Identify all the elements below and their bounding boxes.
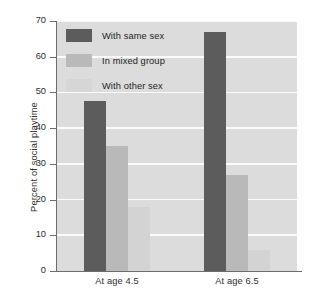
bar [106,146,128,271]
y-tick-mark [50,128,56,129]
legend-label: With same sex [102,31,164,41]
y-tick-label: 30 [17,159,46,168]
legend-label: In mixed group [102,56,165,66]
legend-item: In mixed group [66,48,165,73]
y-tick-mark [50,271,56,272]
bar [226,175,248,271]
gridline [57,21,297,22]
y-tick-mark [50,200,56,201]
chart-legend: With same sexIn mixed groupWith other se… [66,23,165,98]
legend-swatch [66,29,92,42]
y-tick-label: 40 [17,123,46,132]
y-tick-mark [50,164,56,165]
y-tick-mark [50,21,56,22]
y-tick-label: 0 [17,266,46,275]
legend-label: With other sex [102,81,163,91]
legend-item: With same sex [66,23,165,48]
bar [248,250,270,271]
bar [128,207,150,271]
bar-chart-figure: Percent of social playtime 0102030405060… [0,0,310,302]
legend-swatch [66,54,92,67]
bar [204,32,226,271]
y-tick-label: 60 [17,52,46,61]
y-tick-mark [50,92,56,93]
legend-item: With other sex [66,73,165,98]
x-tick-label: At age 4.5 [57,276,177,286]
bar [84,101,106,271]
y-tick-label: 20 [17,195,46,204]
y-tick-label: 10 [17,230,46,239]
y-tick-mark [50,235,56,236]
x-axis-line [56,271,302,272]
y-tick-label: 70 [17,16,46,25]
y-tick-label: 50 [17,87,46,96]
y-tick-mark [50,57,56,58]
x-tick-label: At age 6.5 [177,276,297,286]
legend-swatch [66,79,92,92]
